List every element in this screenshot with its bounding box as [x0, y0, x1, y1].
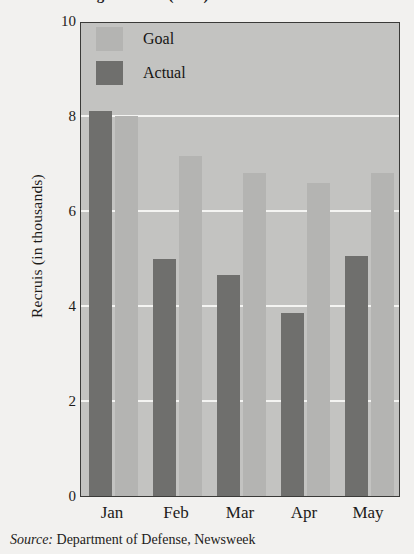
- x-tick-label: Mar: [208, 502, 272, 524]
- legend-swatch-actual: [96, 61, 123, 85]
- y-axis-tick-labels: 0246810: [52, 0, 76, 554]
- legend-item-goal: Goal: [96, 22, 266, 56]
- plot-area: [80, 22, 400, 497]
- x-tick-label: Jan: [80, 502, 144, 524]
- legend-item-actual: Actual: [96, 56, 266, 90]
- legend-swatch-goal: [96, 27, 123, 51]
- source-note: Source: Department of Defense, Newsweek: [10, 531, 256, 549]
- legend-label-goal: Goal: [143, 30, 174, 48]
- x-tick-label: Apr: [272, 502, 336, 524]
- y-tick-label: 10: [52, 14, 76, 29]
- y-tick-label: 0: [52, 489, 76, 504]
- bar-goal: [179, 156, 202, 496]
- y-axis-title: Recruis (in thousands): [28, 136, 46, 356]
- x-tick-label: May: [336, 502, 400, 524]
- bar-actual: [217, 275, 240, 496]
- plot-inner: [81, 23, 399, 496]
- chart-legend: Goal Actual: [96, 22, 266, 90]
- y-tick-label: 6: [52, 204, 76, 219]
- y-tick-label: 4: [52, 299, 76, 314]
- bar-goal: [243, 173, 266, 496]
- bar-goal: [307, 183, 330, 497]
- bar-actual: [89, 111, 112, 496]
- x-tick-label: Feb: [144, 502, 208, 524]
- bar-actual: [153, 259, 176, 497]
- bar-actual: [281, 313, 304, 496]
- y-tick-label: 2: [52, 394, 76, 409]
- source-text: Department of Defense, Newsweek: [57, 532, 256, 547]
- bar-actual: [345, 256, 368, 496]
- y-tick-label: 8: [52, 109, 76, 124]
- legend-label-actual: Actual: [143, 64, 186, 82]
- x-axis-tick-labels: JanFebMarAprMay: [80, 502, 400, 528]
- bar-goal: [371, 173, 394, 496]
- bar-goal: [115, 116, 138, 496]
- bar-chart-figure: Recruis (in thousands) 0246810 Goal Actu…: [0, 0, 414, 554]
- source-label: Source:: [10, 532, 53, 547]
